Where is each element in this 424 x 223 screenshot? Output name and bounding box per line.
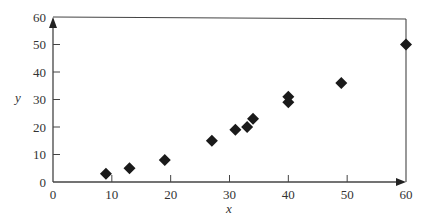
data-point-diamond-icon — [335, 77, 347, 89]
data-point-diamond-icon — [159, 154, 171, 166]
data-point-diamond-icon — [100, 168, 112, 180]
data-points — [100, 39, 412, 180]
x-tick-label: 20 — [164, 187, 177, 202]
x-tick-label: 30 — [223, 187, 236, 202]
y-tick-label: 60 — [33, 10, 46, 25]
x-axis-label: x — [225, 201, 232, 216]
data-point-diamond-icon — [229, 124, 241, 136]
y-tick-label: 40 — [33, 65, 46, 80]
y-tick-label: 30 — [33, 92, 46, 107]
scatter-chart: 0102030405060 0102030405060 x y — [0, 0, 424, 223]
x-tick-label: 10 — [105, 187, 118, 202]
y-axis-ticks: 0102030405060 — [33, 10, 60, 190]
x-tick-label: 50 — [341, 187, 354, 202]
data-point-diamond-icon — [123, 162, 135, 174]
plot-frame — [49, 17, 406, 186]
y-tick-label: 50 — [33, 37, 46, 52]
x-tick-label: 60 — [400, 187, 413, 202]
data-point-diamond-icon — [400, 39, 412, 51]
x-tick-label: 40 — [282, 187, 295, 202]
top-border-line — [53, 17, 406, 19]
x-tick-label: 0 — [50, 187, 57, 202]
x-axis-arrow-icon — [396, 178, 406, 186]
y-axis-arrow-icon — [49, 17, 57, 28]
y-tick-label: 0 — [40, 175, 47, 190]
y-tick-label: 10 — [33, 147, 46, 162]
y-axis-label: y — [13, 90, 21, 105]
data-point-diamond-icon — [206, 135, 218, 147]
x-axis-ticks: 0102030405060 — [50, 175, 413, 202]
y-tick-label: 20 — [33, 120, 46, 135]
